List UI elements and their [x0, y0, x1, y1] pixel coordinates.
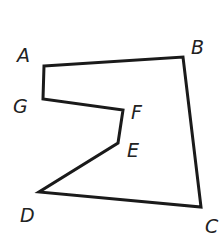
vertex-label-f: F — [131, 101, 143, 123]
vertex-label-d: D — [20, 204, 35, 226]
vertex-label-b: B — [191, 36, 204, 58]
vertex-label-g: G — [13, 95, 28, 117]
polygon-ABCDEFG — [39, 57, 201, 207]
vertex-label-a: A — [15, 44, 30, 66]
polygon-diagram: A B C D E F G — [0, 0, 222, 247]
vertex-label-e: E — [127, 139, 139, 161]
vertex-label-c: C — [205, 215, 219, 237]
